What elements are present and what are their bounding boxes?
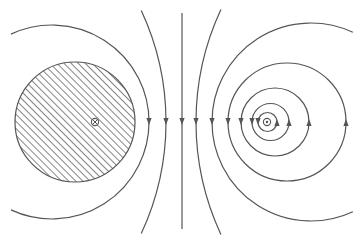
field-line-right-wide	[196, 10, 221, 235]
current-out-of-page-icon	[263, 118, 270, 125]
arrow-down-icon	[255, 118, 260, 125]
field-line-left-wide	[141, 10, 166, 233]
arrow-down-icon	[225, 118, 230, 125]
arrow-down-icon	[146, 118, 151, 125]
arrow-up-icon	[306, 119, 311, 126]
arrow-down-icon	[179, 118, 184, 125]
left-conductor	[15, 62, 135, 182]
arrow-up-icon	[274, 119, 279, 126]
diagram-canvas	[0, 0, 364, 246]
arrow-up-icon	[286, 119, 291, 126]
field-diagram: Magnetic field lines of two antiparallel…	[0, 0, 364, 246]
arrow-down-icon	[193, 118, 198, 125]
arrow-up-icon	[343, 119, 348, 126]
arrow-down-icon	[249, 118, 254, 125]
arrow-down-icon	[163, 118, 168, 125]
arrow-down-icon	[238, 118, 243, 125]
field-line-circle-4	[228, 63, 346, 181]
field-line-right-outer	[212, 23, 353, 221]
arrow-down-icon	[209, 118, 214, 125]
current-into-page-icon	[91, 118, 98, 125]
